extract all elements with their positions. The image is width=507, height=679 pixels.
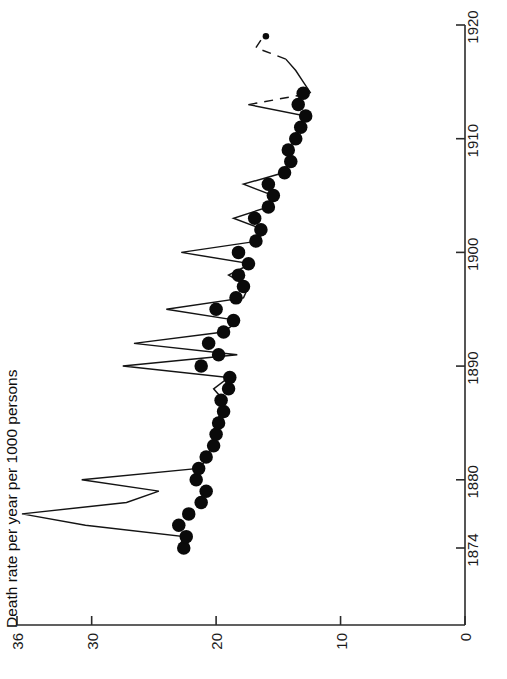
time-tick-label: 1920 [464,10,481,43]
data-point-marker [254,223,268,237]
data-point-marker [209,428,223,442]
series-line-group [22,36,311,548]
value-tick-label: 20 [208,633,225,650]
data-point-marker [172,519,186,533]
value-tick-label: 36 [9,633,26,650]
time-tick-label: 1874 [464,533,481,566]
data-point-marker [194,359,208,373]
data-point-marker [248,212,262,226]
value-axis-title: Death rate per year per 1000 persons [3,369,20,628]
data-point-marker [202,337,216,351]
data-point-marker [284,155,298,169]
data-point-marker [189,473,203,487]
series-segment [22,105,306,548]
value-axis-tick-labels: 363020100 [9,633,474,650]
data-point-marker [232,246,246,260]
value-axis: 363020100 [9,616,474,650]
data-point-marker [227,314,241,328]
value-axis-ticks [17,616,465,625]
series-marker-group [172,33,312,555]
data-point-marker [223,371,237,385]
data-point-marker [217,405,231,419]
data-point-marker [209,302,223,316]
time-tick-label: 1890 [464,351,481,384]
data-point-marker [222,382,236,396]
data-point-marker [177,541,191,555]
time-tick-label: 1900 [464,238,481,271]
data-point-marker [182,507,196,521]
time-axis-tick-labels: 187418801890190019101920 [464,10,481,566]
death-rate-chart: 363020100 187418801890190019101920 Death… [0,0,507,679]
chart-figure: 363020100 187418801890190019101920 Death… [0,0,507,679]
data-point-marker [282,143,296,157]
data-point-marker [179,530,193,544]
data-point-marker [199,484,213,498]
series-segment-dashed [256,36,286,59]
data-point-marker [192,462,206,476]
value-tick-label: 30 [84,633,101,650]
data-point-marker [278,166,292,180]
data-point-marker [212,348,226,362]
data-point-marker [229,291,243,305]
data-point-marker [217,325,231,339]
data-point-marker [242,257,256,271]
data-point-marker [299,109,313,123]
data-point-marker [199,450,213,464]
time-tick-label: 1880 [464,465,481,498]
data-point-marker [296,86,310,100]
data-point-marker [207,439,221,453]
value-tick-label: 10 [333,633,350,650]
data-point-marker [214,393,228,407]
value-tick-label: 0 [457,633,474,641]
data-point-marker [263,33,270,40]
time-tick-label: 1910 [464,124,481,157]
data-point-marker [232,268,246,282]
data-point-marker [262,177,276,191]
time-axis: 187418801890190019101920 [456,10,481,625]
